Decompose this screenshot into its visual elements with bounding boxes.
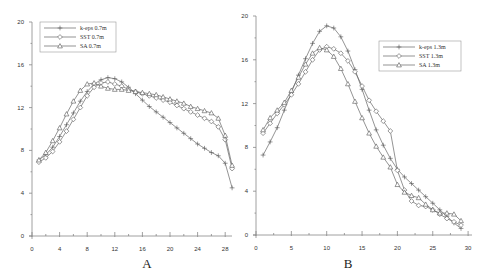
legend-entry: SST 1.3m bbox=[419, 53, 443, 59]
diamond-marker bbox=[78, 105, 83, 110]
chart-panel-b: 048121620051015202530k-eps 1.3mSST 1.3mS… bbox=[241, 13, 472, 271]
diamond-marker bbox=[310, 57, 315, 62]
cross-marker bbox=[64, 122, 69, 127]
diamond-marker bbox=[71, 117, 76, 122]
cross-marker bbox=[374, 127, 379, 132]
diamond-marker bbox=[57, 139, 62, 144]
x-tick-label: 0 bbox=[30, 246, 34, 252]
diamond-marker bbox=[64, 129, 69, 134]
y-tick-label: 20 bbox=[241, 13, 248, 19]
cross-marker bbox=[57, 134, 62, 139]
x-tick-label: 12 bbox=[111, 246, 118, 252]
diamond-marker bbox=[444, 216, 449, 221]
triangle-marker bbox=[230, 163, 235, 167]
triangle-marker bbox=[317, 45, 322, 49]
diamond-marker bbox=[202, 116, 207, 121]
x-tick-label: 25 bbox=[429, 245, 436, 251]
legend: k-eps 0.7mSST 0.7mSA 0.7m bbox=[40, 22, 116, 52]
triangle-marker bbox=[353, 99, 358, 103]
legend-entry: SA 1.3m bbox=[419, 62, 440, 68]
x-tick-label: 15 bbox=[359, 245, 366, 251]
triangle-marker bbox=[57, 126, 62, 130]
y-tick-label: 8 bbox=[245, 144, 249, 150]
triangle-marker bbox=[223, 133, 228, 137]
triangle-marker bbox=[310, 51, 315, 55]
y-tick-label: 12 bbox=[17, 105, 24, 111]
x-tick-label: 10 bbox=[323, 245, 330, 251]
series-sa-1-3m bbox=[261, 45, 464, 222]
x-tick-label: 4 bbox=[58, 246, 62, 252]
y-tick-label: 16 bbox=[17, 62, 24, 68]
triangle-marker bbox=[367, 131, 372, 135]
triangle-marker bbox=[381, 155, 386, 159]
diamond-marker bbox=[388, 129, 393, 134]
triangle-marker bbox=[374, 144, 379, 148]
diamond-marker bbox=[374, 109, 379, 114]
triangle-marker bbox=[338, 66, 343, 70]
y-tick-label: 0 bbox=[245, 232, 249, 238]
triangle-marker bbox=[261, 127, 266, 131]
cross-marker bbox=[209, 150, 214, 155]
diamond-marker bbox=[175, 103, 180, 108]
triangle-marker bbox=[71, 99, 76, 103]
diamond-marker bbox=[416, 203, 421, 208]
y-tick-label: 4 bbox=[21, 190, 25, 196]
diamond-marker bbox=[303, 69, 308, 74]
triangle-marker bbox=[188, 104, 193, 108]
diamond-marker bbox=[188, 109, 193, 114]
cross-marker bbox=[303, 56, 308, 61]
cross-marker bbox=[261, 153, 266, 158]
y-tick-label: 0 bbox=[21, 233, 25, 239]
legend-entry: k-eps 1.3m bbox=[419, 44, 446, 50]
triangle-marker bbox=[395, 182, 400, 186]
panel-label: A bbox=[142, 256, 152, 271]
legend: k-eps 1.3mSST 1.3mSA 1.3m bbox=[379, 41, 461, 71]
diamond-marker bbox=[452, 219, 457, 224]
diamond-marker bbox=[268, 121, 273, 126]
triangle-marker bbox=[50, 138, 55, 142]
x-tick-label: 0 bbox=[254, 245, 258, 251]
diamond-marker bbox=[395, 168, 400, 173]
diamond-marker bbox=[409, 199, 414, 204]
diamond-marker bbox=[296, 81, 301, 86]
triangle-marker bbox=[216, 116, 221, 120]
series-sst-1-3m bbox=[261, 44, 464, 227]
chart-figure: 0481216200481216202428k-eps 0.7mSST 0.7m… bbox=[0, 0, 487, 277]
cross-marker bbox=[275, 125, 280, 130]
cross-marker bbox=[367, 108, 372, 113]
y-tick-label: 4 bbox=[245, 188, 249, 194]
x-tick-label: 28 bbox=[222, 246, 229, 252]
cross-marker bbox=[381, 143, 386, 148]
legend-entry: SST 0.7m bbox=[80, 34, 104, 40]
y-tick-label: 20 bbox=[17, 19, 24, 25]
legend-entry: SA 0.7m bbox=[80, 43, 101, 49]
triangle-marker bbox=[296, 75, 301, 79]
diamond-marker bbox=[381, 119, 386, 124]
x-tick-label: 20 bbox=[167, 246, 174, 252]
cross-marker bbox=[112, 76, 117, 81]
cross-marker bbox=[71, 111, 76, 116]
cross-marker bbox=[202, 146, 207, 151]
diamond-marker bbox=[367, 98, 372, 103]
diamond-marker bbox=[181, 106, 186, 111]
x-tick-label: 8 bbox=[86, 246, 90, 252]
diamond-marker bbox=[106, 80, 111, 85]
triangle-marker bbox=[64, 112, 69, 116]
panel-label: B bbox=[344, 256, 353, 271]
diamond-marker bbox=[112, 82, 117, 87]
y-tick-label: 16 bbox=[241, 57, 248, 63]
cross-marker bbox=[282, 108, 287, 113]
triangle-marker bbox=[360, 115, 365, 119]
x-tick-label: 30 bbox=[465, 245, 472, 251]
y-tick-label: 8 bbox=[21, 147, 25, 153]
diamond-marker bbox=[195, 113, 200, 118]
cross-marker bbox=[78, 99, 83, 104]
triangle-marker bbox=[346, 81, 351, 85]
cross-marker bbox=[346, 49, 351, 54]
chart-panel-a: 0481216200481216202428k-eps 0.7mSST 0.7m… bbox=[17, 19, 234, 271]
cross-marker bbox=[268, 140, 273, 145]
cross-marker bbox=[230, 185, 235, 190]
x-tick-label: 16 bbox=[139, 246, 146, 252]
legend-entry: k-eps 0.7m bbox=[80, 25, 107, 31]
cross-marker bbox=[310, 41, 315, 46]
